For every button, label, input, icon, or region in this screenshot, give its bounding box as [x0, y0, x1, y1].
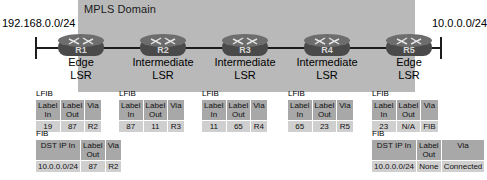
table-title: LFIB	[201, 89, 268, 98]
header-via: Via	[421, 100, 437, 120]
header-via: Via	[251, 100, 266, 120]
cell-via: R5	[337, 121, 352, 132]
table-title: LFIB	[287, 89, 354, 98]
mpls-domain-label: MPLS Domain	[84, 3, 156, 15]
table-header-row: LabelIn LabelOut Via	[202, 100, 267, 120]
router-name: R4	[304, 45, 350, 55]
table-header-row: DST IP In LabelOut Via	[36, 140, 121, 160]
lfib-table-r3: LFIB LabelIn LabelOut Via 11 65 R4	[201, 89, 268, 133]
fib-table-r5: FIB DST IP In LabelOut Via 10.0.0.0/24 N…	[371, 129, 485, 173]
table-header-row: LabelIn LabelOut Via	[36, 100, 101, 120]
header-label-out: LabelOut	[61, 100, 85, 120]
cell-label-in: 87	[119, 121, 143, 132]
header-via: Via	[168, 100, 183, 120]
cell-via: R2	[106, 161, 121, 172]
cell-label-out: 65	[227, 121, 251, 132]
lfib-table-r5: LFIB LabelIn LabelOut Via 23 N/A FIB	[371, 89, 439, 133]
fib-table: DST IP In LabelOut Via 10.0.0.0/24 87 R2	[35, 139, 122, 173]
cell-dst-ip-in: 10.0.0.0/24	[36, 161, 80, 172]
cell-label-out: 23	[313, 121, 337, 132]
cell-dst-ip-in: 10.0.0.0/24	[372, 161, 416, 172]
lfib-table: LabelIn LabelOut Via 23 N/A FIB	[371, 99, 439, 133]
cell-label-out: 87	[81, 161, 105, 172]
header-dst-ip-in: DST IP In	[36, 140, 80, 160]
table-title: LFIB	[118, 89, 185, 98]
role-line-1: Edge	[354, 56, 464, 69]
header-label-in: LabelIn	[202, 100, 226, 120]
header-via: Via	[85, 100, 100, 120]
router-role-r5: Edge LSR	[354, 56, 464, 82]
header-label-out: LabelOut	[397, 100, 421, 120]
lfib-table-r4: LFIB LabelIn LabelOut Via 65 23 R5	[287, 89, 354, 133]
cell-via: R3	[168, 121, 183, 132]
cell-label-in: 11	[202, 121, 226, 132]
header-dst-ip-in: DST IP In	[372, 140, 416, 160]
cell-label-in: 65	[288, 121, 312, 132]
table-title: FIB	[371, 129, 485, 138]
lfib-table: LabelIn LabelOut Via 19 87 R2	[35, 99, 102, 133]
table-header-row: LabelIn LabelOut Via	[372, 100, 438, 120]
header-label-out: LabelOut	[81, 140, 105, 160]
header-label-in: LabelIn	[288, 100, 312, 120]
table-header-row: LabelIn LabelOut Via	[288, 100, 353, 120]
table-header-row: DST IP In LabelOut Via	[372, 140, 484, 160]
header-label-in: LabelIn	[36, 100, 60, 120]
lfib-table-r2: LFIB LabelIn LabelOut Via 87 11 R3	[118, 89, 185, 133]
lfib-table: LabelIn LabelOut Via 11 65 R4	[201, 99, 268, 133]
table-title: FIB	[35, 129, 122, 138]
header-label-out: LabelOut	[417, 140, 441, 160]
fib-table: DST IP In LabelOut Via 10.0.0.0/24 None …	[371, 139, 485, 173]
header-label-in: LabelIn	[119, 100, 143, 120]
table-row: 11 65 R4	[202, 121, 267, 132]
table-title: LFIB	[35, 89, 102, 98]
header-via: Via	[442, 140, 485, 160]
cell-via: R4	[251, 121, 266, 132]
lfib-table: LabelIn LabelOut Via 65 23 R5	[287, 99, 354, 133]
header-via: Via	[106, 140, 121, 160]
router-name: R2	[140, 45, 186, 55]
table-row: 10.0.0.0/24 None Connected	[372, 161, 484, 172]
cell-via: Connected	[442, 161, 485, 172]
header-label-out: LabelOut	[227, 100, 251, 120]
cell-label-out: 11	[144, 121, 168, 132]
table-row: 65 23 R5	[288, 121, 353, 132]
lfib-table: LabelIn LabelOut Via 87 11 R3	[118, 99, 185, 133]
header-label-out: LabelOut	[313, 100, 337, 120]
table-row: 87 11 R3	[119, 121, 184, 132]
network-label-left: 192.168.0.0/24	[2, 17, 75, 29]
header-label-out: LabelOut	[144, 100, 168, 120]
cell-label-out: None	[417, 161, 441, 172]
router-name: R5	[386, 45, 432, 55]
role-line-2: LSR	[354, 69, 464, 82]
network-label-right: 10.0.0.0/24	[432, 17, 487, 29]
header-label-in: LabelIn	[372, 100, 396, 120]
lfib-table-r1: LFIB LabelIn LabelOut Via 19 87 R2	[35, 89, 102, 133]
header-via: Via	[337, 100, 352, 120]
table-row: 10.0.0.0/24 87 R2	[36, 161, 121, 172]
fib-table-r1: FIB DST IP In LabelOut Via 10.0.0.0/24 8…	[35, 129, 122, 173]
table-title: LFIB	[371, 89, 439, 98]
router-name: R3	[222, 45, 268, 55]
table-header-row: LabelIn LabelOut Via	[119, 100, 184, 120]
router-name: R1	[58, 45, 104, 55]
